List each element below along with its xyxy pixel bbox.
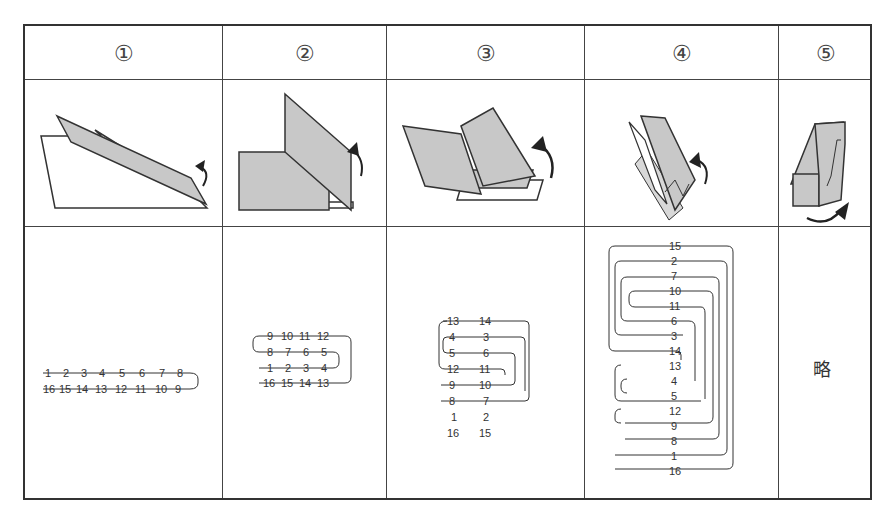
- svg-text:13: 13: [669, 360, 681, 372]
- page-order-diagram-1: 12 34 56 78 1615 1413 1211 109: [25, 227, 222, 500]
- svg-text:1: 1: [267, 362, 273, 374]
- svg-text:8: 8: [449, 395, 455, 407]
- svg-text:14: 14: [669, 345, 681, 357]
- svg-text:16: 16: [447, 427, 459, 439]
- svg-text:10: 10: [155, 383, 167, 395]
- svg-text:11: 11: [299, 330, 310, 342]
- svg-text:16: 16: [43, 383, 55, 395]
- svg-text:11: 11: [479, 363, 490, 375]
- svg-text:4: 4: [99, 367, 105, 379]
- step-3-header: ③: [387, 26, 584, 80]
- svg-text:9: 9: [175, 383, 181, 395]
- svg-text:8: 8: [267, 346, 273, 358]
- svg-text:16: 16: [669, 465, 681, 477]
- page-order-diagram-2: 9101112 8765 1234 16151413: [223, 227, 386, 500]
- svg-text:7: 7: [159, 367, 165, 379]
- svg-text:2: 2: [671, 255, 677, 267]
- svg-text:9: 9: [671, 420, 677, 432]
- svg-text:14: 14: [76, 383, 88, 395]
- svg-text:12: 12: [317, 330, 329, 342]
- svg-text:5: 5: [119, 367, 125, 379]
- svg-text:12: 12: [669, 405, 681, 417]
- svg-text:10: 10: [479, 379, 491, 391]
- svg-text:2: 2: [63, 367, 69, 379]
- fold-illustration-5: [779, 80, 872, 226]
- svg-text:9: 9: [267, 330, 273, 342]
- svg-text:15: 15: [479, 427, 491, 439]
- svg-text:10: 10: [281, 330, 293, 342]
- fold-illustration-4: [585, 80, 778, 226]
- svg-text:13: 13: [317, 377, 329, 389]
- svg-text:10: 10: [669, 285, 681, 297]
- svg-text:15: 15: [281, 377, 293, 389]
- svg-text:15: 15: [669, 240, 681, 252]
- svg-text:14: 14: [299, 377, 311, 389]
- omitted-label: 略: [813, 355, 831, 381]
- svg-text:2: 2: [483, 411, 489, 423]
- svg-text:13: 13: [447, 315, 459, 327]
- svg-text:3: 3: [303, 362, 309, 374]
- svg-text:6: 6: [139, 367, 145, 379]
- svg-text:6: 6: [483, 347, 489, 359]
- svg-text:3: 3: [483, 331, 489, 343]
- svg-text:6: 6: [671, 315, 677, 327]
- svg-text:5: 5: [449, 347, 455, 359]
- svg-text:3: 3: [81, 367, 87, 379]
- svg-text:15: 15: [59, 383, 71, 395]
- svg-text:7: 7: [671, 270, 677, 282]
- svg-text:5: 5: [671, 390, 677, 402]
- svg-text:4: 4: [321, 362, 327, 374]
- svg-text:14: 14: [479, 315, 491, 327]
- svg-text:7: 7: [285, 346, 291, 358]
- page-order-diagram-4: 15 2 7 10 11 6 3 14 13 4 5 12 9 8 1 16: [585, 227, 778, 500]
- svg-text:6: 6: [303, 346, 309, 358]
- svg-text:12: 12: [447, 363, 459, 375]
- step-2-header: ②: [223, 26, 386, 80]
- svg-text:1: 1: [671, 450, 677, 462]
- page-order-diagram-3: 1314 43 56 1211 910 87 12 1615: [387, 227, 584, 500]
- svg-text:8: 8: [177, 367, 183, 379]
- svg-text:1: 1: [451, 411, 457, 423]
- svg-text:5: 5: [321, 346, 327, 358]
- svg-text:16: 16: [263, 377, 275, 389]
- svg-text:13: 13: [95, 383, 107, 395]
- svg-text:11: 11: [669, 300, 680, 312]
- svg-text:4: 4: [671, 375, 677, 387]
- svg-text:12: 12: [115, 383, 127, 395]
- svg-text:2: 2: [285, 362, 291, 374]
- svg-text:8: 8: [671, 435, 677, 447]
- svg-text:1: 1: [45, 367, 51, 379]
- fold-illustration-1: [25, 80, 222, 226]
- step-5-header: ⑤: [779, 26, 872, 80]
- svg-text:11: 11: [135, 383, 146, 395]
- svg-text:9: 9: [449, 379, 455, 391]
- svg-text:3: 3: [671, 330, 677, 342]
- svg-text:4: 4: [449, 331, 455, 343]
- svg-text:7: 7: [483, 395, 489, 407]
- folding-steps-table: ① ② ③ ④ ⑤: [23, 24, 872, 500]
- step-1-header: ①: [25, 26, 222, 80]
- step-4-header: ④: [585, 26, 778, 80]
- fold-illustration-3: [387, 80, 584, 226]
- fold-illustration-2: [223, 80, 386, 226]
